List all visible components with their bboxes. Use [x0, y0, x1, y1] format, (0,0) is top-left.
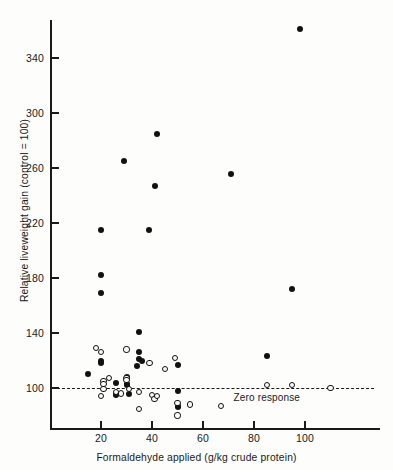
x-tick-label: 80: [234, 432, 274, 444]
x-tick-label: 40: [132, 432, 172, 444]
data-point-open: [123, 346, 129, 352]
data-point-filled: [228, 171, 234, 177]
data-point-open: [146, 360, 152, 366]
x-tick: [151, 421, 153, 428]
y-tick: [52, 167, 59, 169]
data-point-open: [136, 406, 142, 412]
y-tick: [52, 112, 59, 114]
y-tick: [52, 277, 59, 279]
x-tick: [100, 421, 102, 428]
plot-area: [50, 20, 380, 430]
scatter-chart: 100140180220260300340 20406080100 Zero r…: [0, 0, 393, 470]
y-tick: [52, 222, 59, 224]
data-point-open: [162, 366, 168, 372]
zero-response-label: Zero response: [234, 392, 300, 403]
data-point-open: [123, 377, 129, 383]
x-axis-line: [50, 428, 380, 430]
y-tick: [52, 57, 59, 59]
data-point-filled: [152, 183, 158, 189]
x-tick: [202, 421, 204, 428]
x-tick-label: 60: [183, 432, 223, 444]
data-point-open: [174, 400, 180, 406]
y-axis-title-wrap: Relative liveweight gain (control = 100): [2, 0, 18, 470]
x-tick-label: 20: [81, 432, 121, 444]
y-axis-title: Relative liveweight gain (control = 100): [19, 101, 30, 321]
data-point-filled: [175, 362, 181, 368]
y-tick: [52, 332, 59, 334]
data-point-filled: [98, 227, 104, 233]
data-point-open: [187, 401, 193, 407]
x-axis-title: Formaldehyde applied (g/kg crude protein…: [0, 452, 393, 463]
data-point-open: [174, 412, 180, 418]
x-tick-label: 100: [285, 432, 325, 444]
data-point-filled: [139, 358, 145, 364]
data-point-filled: [113, 380, 119, 386]
data-point-open: [327, 385, 333, 391]
data-point-filled: [175, 388, 181, 394]
x-tick: [253, 421, 255, 428]
data-point-filled: [134, 363, 140, 369]
data-point-filled: [297, 26, 303, 32]
y-axis-line: [50, 20, 52, 430]
data-point-open: [218, 403, 224, 409]
data-point-filled: [154, 131, 160, 137]
x-tick: [304, 421, 306, 428]
data-point-filled: [136, 329, 142, 335]
data-point-open: [172, 355, 178, 361]
